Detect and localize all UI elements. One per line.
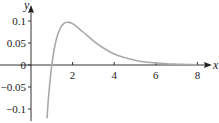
y-tick-label: −0.05 <box>1 81 27 93</box>
y-tick-label: 0.05 <box>7 37 27 49</box>
x-axis-arrow-icon <box>204 62 212 68</box>
y-tick-label: 0 <box>21 59 27 71</box>
axes <box>0 5 212 121</box>
x-tick-label: 6 <box>153 69 159 81</box>
chart: 24680.10.050−0.05−0.1 x y <box>0 0 219 123</box>
x-axis-label: x <box>212 58 219 72</box>
y-tick-label: 0.1 <box>12 15 26 27</box>
x-tick-label: 4 <box>111 69 117 81</box>
x-tick-label: 8 <box>195 69 201 81</box>
y-axis-label: y <box>23 0 30 12</box>
x-tick-label: 2 <box>70 69 76 81</box>
y-tick-label: −0.1 <box>6 103 26 115</box>
